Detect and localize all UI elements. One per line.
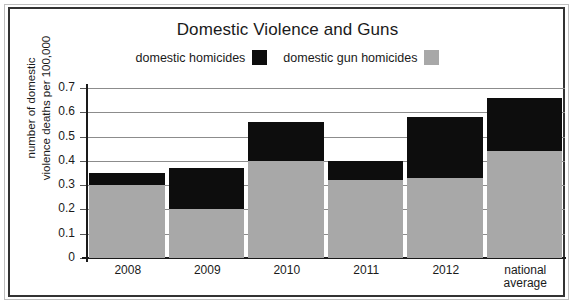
x-axis-label-line: 2010 xyxy=(247,264,327,277)
x-axis-label-2009: 2009 xyxy=(168,264,248,277)
legend-label-domestic-gun-homicides: domestic gun homicides xyxy=(283,51,417,65)
x-axis-label-national-average: nationalaverage xyxy=(486,264,566,290)
bar-segment-domestic-homicides xyxy=(89,173,165,185)
y-axis-tick-label: 0.1 xyxy=(47,226,75,240)
bar-segment-domestic-homicides xyxy=(328,161,404,180)
bar-segment-domestic-homicides xyxy=(248,122,324,161)
x-axis-label-line: 2009 xyxy=(168,264,248,277)
x-axis-label-line: 2008 xyxy=(88,264,168,277)
bar-segment-domestic-gun-homicides xyxy=(89,185,165,258)
x-axis-label-line: 2012 xyxy=(406,264,486,277)
x-axis-label-line: 2011 xyxy=(327,264,407,277)
bar-2008 xyxy=(89,173,165,258)
bar-2010 xyxy=(248,122,324,258)
y-axis-tick-label: 0.4 xyxy=(47,153,75,167)
y-axis-tick-label: 0.5 xyxy=(47,129,75,143)
legend-entry-domestic-homicides: domestic homicides xyxy=(136,50,268,65)
bar-segment-domestic-homicides xyxy=(487,98,563,151)
chart-legend: domestic homicides domestic gun homicide… xyxy=(0,50,575,65)
bar-segment-domestic-gun-homicides xyxy=(248,161,324,258)
x-axis-label-2012: 2012 xyxy=(406,264,486,277)
x-axis-label-line: average xyxy=(486,277,566,290)
bar-national-average xyxy=(487,98,563,258)
bar-2009 xyxy=(169,168,245,258)
legend-swatch-domestic-gun-homicides xyxy=(424,50,439,65)
legend-swatch-domestic-homicides xyxy=(252,50,267,65)
bar-segment-domestic-gun-homicides xyxy=(169,209,245,258)
y-axis-title-line-1: number of domestic xyxy=(24,58,39,159)
bar-segment-domestic-homicides xyxy=(169,168,245,209)
y-axis-tick-label: 0 xyxy=(47,250,75,264)
legend-entry-domestic-gun-homicides: domestic gun homicides xyxy=(283,50,439,65)
chart-title: Domestic Violence and Guns xyxy=(0,20,575,40)
bar-2012 xyxy=(407,117,483,258)
bar-segment-domestic-gun-homicides xyxy=(487,151,563,258)
x-axis-labels: 20082009201020112012nationalaverage xyxy=(88,262,565,302)
y-axis-tick-label: 0.3 xyxy=(47,177,75,191)
bar-segment-domestic-gun-homicides xyxy=(407,178,483,258)
plot-area xyxy=(88,88,565,258)
y-axis-tick-label: 0.2 xyxy=(47,201,75,215)
x-axis-label-2011: 2011 xyxy=(327,264,407,277)
gridline xyxy=(88,88,565,89)
y-axis-tick-label: 0.7 xyxy=(47,80,75,94)
x-axis-label-2008: 2008 xyxy=(88,264,168,277)
bar-segment-domestic-homicides xyxy=(407,117,483,178)
bar-2011 xyxy=(328,161,404,258)
legend-label-domestic-homicides: domestic homicides xyxy=(136,51,246,65)
y-axis-tick-label: 0.6 xyxy=(47,104,75,118)
x-axis-label-2010: 2010 xyxy=(247,264,327,277)
bar-segment-domestic-gun-homicides xyxy=(328,180,404,258)
chart-figure: Domestic Violence and Guns domestic homi… xyxy=(0,0,575,305)
